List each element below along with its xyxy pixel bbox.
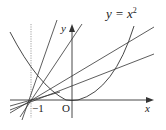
y-axis-label: y — [60, 22, 66, 34]
curve-label: y = x2 — [104, 6, 137, 21]
graph-figure: y = x2 y x O −1 — [0, 0, 166, 130]
x-axis-label: x — [144, 102, 150, 114]
origin-label: O — [62, 102, 70, 114]
y-axis-arrow-icon — [69, 24, 75, 32]
tick-label-neg1: −1 — [32, 102, 44, 114]
